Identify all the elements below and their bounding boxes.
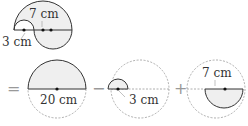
minus-sign: − — [92, 79, 105, 98]
label-3cm: 3 cm — [129, 93, 159, 107]
top-composite-shape: 7 cm 3 cm — [2, 1, 72, 49]
label-20cm: 20 cm — [40, 93, 78, 107]
equals-sign: = — [7, 79, 20, 98]
term3-medium-semicircle: 7 cm — [187, 60, 245, 118]
term2-small-semicircle: 3 cm — [108, 60, 169, 118]
composite-shape-diagram: 7 cm 3 cm = 20 cm − 3 cm + 7 cm — [0, 0, 248, 126]
term1-large-semicircle: 20 cm — [28, 60, 86, 118]
label-3cm-top: 3 cm — [2, 35, 32, 49]
plus-sign: + — [174, 79, 187, 98]
label-7cm-top: 7 cm — [29, 7, 59, 21]
label-7cm: 7 cm — [202, 66, 232, 80]
